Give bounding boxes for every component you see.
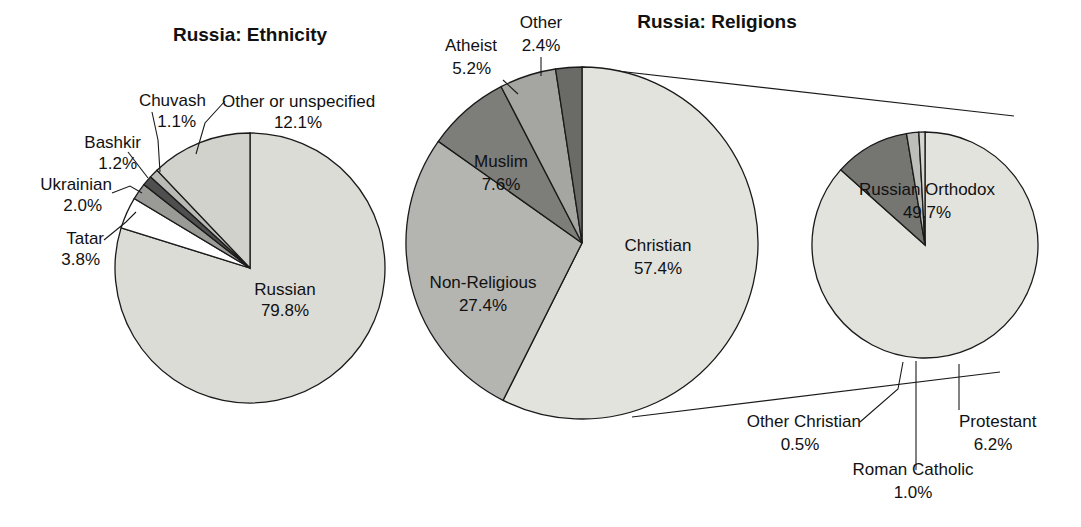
label-russian-name: Russian	[254, 280, 315, 299]
label-muslim-value: 7.6%	[482, 175, 521, 194]
label-non-religious-name: Non-Religious	[430, 273, 537, 292]
label-other-religion-value: 2.4%	[522, 36, 561, 55]
leader-other-christian	[860, 362, 903, 422]
religions-title: Russia: Religions	[637, 11, 796, 32]
label-other-unspecified-name: Other or unspecified	[222, 92, 375, 111]
ethnicity-title: Russia: Ethnicity	[173, 24, 328, 45]
label-russian-orthodox-name: Russian Orthodox	[859, 180, 996, 199]
label-atheist-value: 5.2%	[452, 59, 491, 78]
label-other-christian-name: Other Christian	[747, 412, 861, 431]
label-bashkir-name: Bashkir	[84, 133, 141, 152]
label-other-religion-name: Other	[520, 13, 563, 32]
label-christian-name: Christian	[624, 236, 691, 255]
label-atheist-name: Atheist	[445, 36, 497, 55]
label-other-unspecified-value: 12.1%	[274, 113, 322, 132]
leader-ukrainian	[112, 186, 142, 193]
ethnicity-pie	[115, 133, 385, 403]
figure-svg: Russia: Ethnicity Other or unspecified 1…	[0, 0, 1081, 527]
label-protestant-name: Protestant	[959, 412, 1037, 431]
label-roman-catholic-value: 1.0%	[894, 483, 933, 502]
label-muslim-name: Muslim	[474, 152, 528, 171]
label-tatar-value: 3.8%	[61, 250, 100, 269]
label-ukrainian-value: 2.0%	[63, 196, 102, 215]
label-other-christian-value: 0.5%	[781, 435, 820, 454]
christian-breakdown-pie	[812, 132, 1038, 358]
label-christian-value: 57.4%	[634, 259, 682, 278]
label-chuvash-name: Chuvash	[139, 91, 206, 110]
pie-chart-figure: Russia: Ethnicity Other or unspecified 1…	[0, 0, 1081, 527]
label-tatar-name: Tatar	[66, 229, 104, 248]
label-non-religious-value: 27.4%	[459, 296, 507, 315]
label-bashkir-value: 1.2%	[98, 154, 137, 173]
label-chuvash-value: 1.1%	[157, 112, 196, 131]
label-ukrainian-name: Ukrainian	[40, 175, 112, 194]
label-russian-orthodox-value: 49.7%	[903, 203, 951, 222]
label-roman-catholic-name: Roman Catholic	[853, 460, 974, 479]
christian-breakdown-leader-lines	[860, 361, 959, 470]
label-protestant-value: 6.2%	[974, 435, 1013, 454]
label-russian-value: 79.8%	[261, 301, 309, 320]
religions-pie	[406, 67, 758, 419]
